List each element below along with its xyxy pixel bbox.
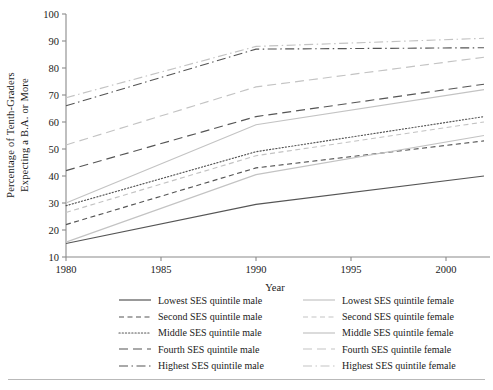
legend-item[interactable]: Lowest SES quintile male [118,292,294,308]
y-axis-tick-label: 40 [49,171,60,182]
legend-line-swatch [118,361,152,371]
legend-label: Highest SES quintile male [158,360,264,371]
chart-legend: Lowest SES quintile maleLowest SES quint… [118,292,478,374]
legend-label: Fourth SES quintile male [158,344,259,355]
legend-label: Middle SES quintile female [342,327,453,338]
legend-line-swatch [302,295,336,305]
legend-item[interactable]: Fourth SES quintile female [302,341,478,357]
legend-line-swatch [118,295,152,305]
footer-divider [8,379,485,380]
y-axis-tick-label: 10 [49,252,60,263]
legend-line-swatch [302,312,336,322]
legend-label: Lowest SES quintile male [158,295,262,306]
x-axis-tick-label: 1980 [56,264,77,275]
series-line [66,117,484,206]
x-axis-tick-label: 1990 [246,264,267,275]
legend-line-swatch [118,328,152,338]
legend-line-swatch [302,328,336,338]
legend-label: Second SES quintile male [158,311,262,322]
y-axis-tick-label: 50 [49,144,60,155]
x-axis-tick-label: 2000 [436,264,457,275]
series-line [66,57,484,145]
series-line [66,84,484,170]
legend-line-swatch [118,312,152,322]
legend-item[interactable]: Middle SES quintile female [302,325,478,341]
legend-line-swatch [302,344,336,354]
legend-item[interactable]: Middle SES quintile male [118,325,294,341]
x-axis-tick-label: 1985 [151,264,172,275]
legend-item[interactable]: Second SES quintile male [118,308,294,324]
y-axis-tick-label: 80 [49,63,60,74]
y-axis-tick-label: 90 [49,36,60,47]
legend-item[interactable]: Fourth SES quintile male [118,341,294,357]
legend-item[interactable]: Highest SES quintile male [118,358,294,374]
y-axis-tick-label: 100 [43,9,59,20]
legend-label: Highest SES quintile female [342,360,456,371]
legend-label: Lowest SES quintile female [342,295,454,306]
legend-label: Second SES quintile female [342,311,454,322]
legend-item[interactable]: Second SES quintile female [302,308,478,324]
line-chart-plot: 1020304050607080901001980198519901995200… [0,0,493,292]
x-axis-tick-label: 1995 [341,264,362,275]
legend-label: Fourth SES quintile female [342,344,451,355]
series-line [66,176,484,244]
series-line [66,48,484,106]
legend-line-swatch [118,344,152,354]
series-line [66,122,484,212]
series-line [66,38,484,97]
y-axis-tick-label: 20 [49,225,60,236]
y-axis-tick-label: 60 [49,117,60,128]
legend-line-swatch [302,361,336,371]
chart-figure: Percentage of Tenth-Graders Expecting a … [0,0,493,390]
legend-label: Middle SES quintile male [158,327,262,338]
y-axis-tick-label: 70 [49,90,60,101]
y-axis-tick-label: 30 [49,198,60,209]
x-axis-title: Year [265,282,285,292]
legend-item[interactable]: Lowest SES quintile female [302,292,478,308]
series-line [66,136,484,243]
legend-item[interactable]: Highest SES quintile female [302,358,478,374]
